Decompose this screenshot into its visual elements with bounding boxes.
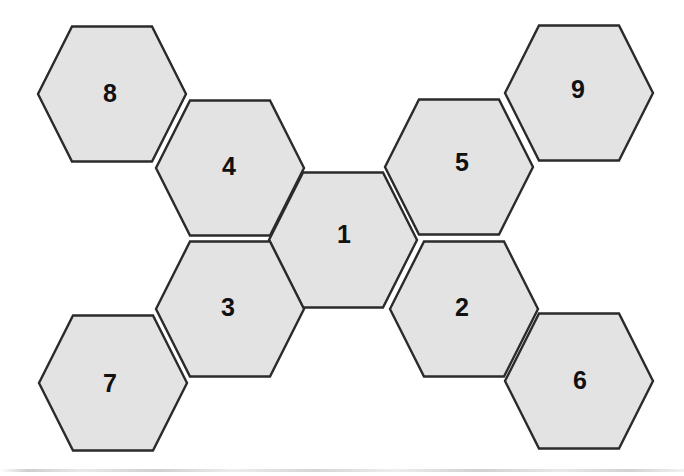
hexagon-label-3: 3 bbox=[221, 293, 235, 321]
hexagon-label-6: 6 bbox=[573, 366, 587, 394]
hexagon-label-4: 4 bbox=[222, 152, 236, 180]
hexagon-diagram-canvas: 123456789 bbox=[0, 0, 684, 476]
scanline-artifact bbox=[0, 469, 684, 472]
hexagon-label-2: 2 bbox=[455, 293, 469, 321]
hexagon-tile-5[interactable]: 5 bbox=[385, 100, 533, 235]
hexagon-tile-7[interactable]: 7 bbox=[39, 316, 187, 451]
hexagon-tile-8[interactable]: 8 bbox=[38, 27, 186, 162]
hexagon-tile-6[interactable]: 6 bbox=[505, 314, 653, 449]
hexagon-diagram-svg: 123456789 bbox=[0, 0, 684, 476]
hexagon-tile-2[interactable]: 2 bbox=[390, 242, 538, 377]
hexagon-label-1: 1 bbox=[337, 220, 351, 248]
hexagon-tile-9[interactable]: 9 bbox=[505, 26, 653, 161]
hexagon-label-8: 8 bbox=[103, 79, 117, 107]
hexagon-tile-group: 123456789 bbox=[38, 26, 653, 451]
hexagon-label-9: 9 bbox=[571, 75, 585, 103]
hexagon-label-7: 7 bbox=[103, 369, 117, 397]
hexagon-label-5: 5 bbox=[455, 148, 469, 176]
